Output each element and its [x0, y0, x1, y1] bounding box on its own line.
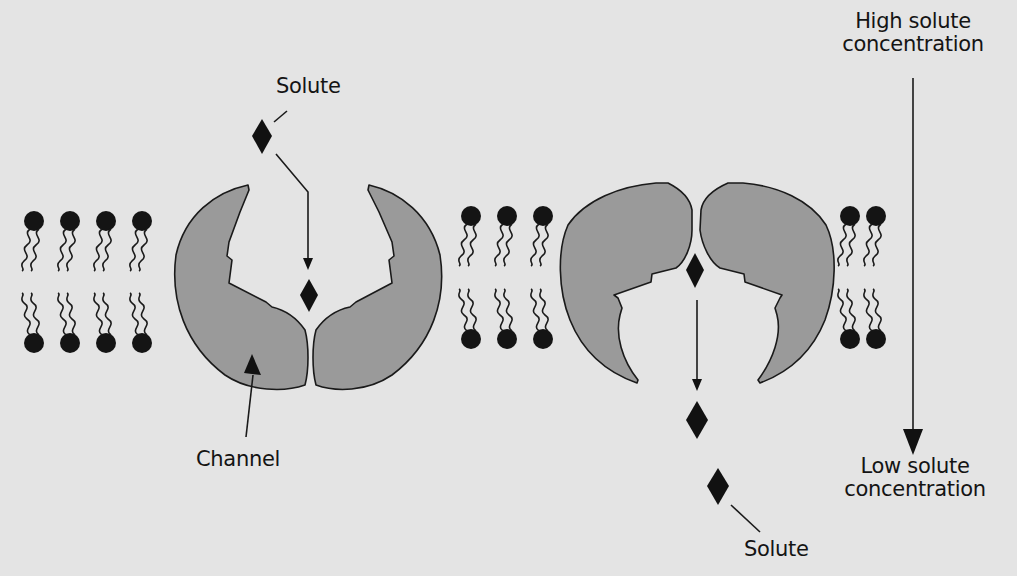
phospholipid-icon — [531, 289, 553, 349]
phospholipid-icon — [58, 293, 80, 353]
low-concentration-line1: Low solute — [840, 455, 990, 478]
phospholipid-icon — [58, 211, 80, 271]
phospholipid-icon — [864, 206, 886, 266]
phospholipid-icon — [459, 289, 481, 349]
phospholipid-icon — [94, 293, 116, 353]
lipid-bilayer-right — [838, 206, 886, 349]
high-concentration-label: High solute concentration — [838, 10, 988, 56]
phospholipid-icon — [130, 211, 152, 271]
solute-icon-in-channel — [686, 253, 704, 288]
solute-icon-released — [707, 468, 729, 505]
high-concentration-line1: High solute — [838, 10, 988, 33]
phospholipid-icon — [459, 206, 481, 266]
solute-icon-in-channel — [300, 279, 318, 312]
low-concentration-line2: concentration — [840, 478, 990, 501]
phospholipid-icon — [838, 206, 860, 266]
solute-icon-top — [252, 119, 272, 154]
arrow-head-icon — [903, 429, 923, 455]
solute-label-leader-top — [274, 111, 287, 122]
channel-label: Channel — [196, 448, 280, 471]
arrow-head-icon — [303, 258, 313, 270]
phospholipid-icon — [495, 206, 517, 266]
lipid-bilayer-middle — [459, 206, 553, 349]
solute-label-leader-bottom — [731, 505, 760, 532]
phospholipid-icon — [531, 206, 553, 266]
phospholipid-icon — [495, 289, 517, 349]
arrow-head-icon — [692, 379, 702, 391]
phospholipid-icon — [838, 289, 860, 349]
diagram-canvas: Solute Channel Solute High solute concen… — [0, 0, 1017, 576]
channel-half-right — [313, 185, 442, 389]
phospholipid-icon — [130, 293, 152, 353]
lipid-bilayer-left — [22, 211, 152, 353]
low-concentration-label: Low solute concentration — [840, 455, 990, 501]
phospholipid-icon — [22, 211, 44, 271]
solute-label-bottom: Solute — [744, 538, 809, 561]
channel-half-left — [560, 183, 692, 383]
solute-path-arrow — [276, 154, 308, 262]
solute-label-top: Solute — [276, 75, 341, 98]
channel-half-right — [700, 183, 834, 383]
phospholipid-icon — [864, 289, 886, 349]
phospholipid-icon — [94, 211, 116, 271]
solute-icon-released — [686, 401, 708, 439]
high-concentration-line2: concentration — [838, 33, 988, 56]
phospholipid-icon — [22, 293, 44, 353]
channel-half-left — [175, 185, 308, 389]
